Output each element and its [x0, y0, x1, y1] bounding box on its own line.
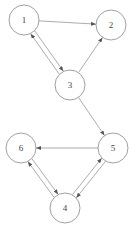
edge-3-to-1	[31, 34, 60, 75]
node-2: 2	[96, 10, 126, 40]
edge-1-to-2	[39, 21, 96, 24]
node-label: 6	[19, 143, 24, 153]
node-label: 1	[22, 15, 27, 25]
node-label: 3	[68, 80, 73, 90]
node-label: 5	[111, 143, 116, 153]
edge-3-to-5	[78, 97, 104, 135]
node-5: 5	[98, 133, 128, 163]
edge-5-to-4	[76, 161, 105, 198]
node-label: 2	[109, 20, 114, 30]
directed-graph: 123564	[0, 0, 139, 236]
node-label: 4	[63, 203, 68, 213]
node-6: 6	[6, 133, 36, 163]
edge-6-to-4	[32, 159, 58, 195]
edge-1-to-3	[35, 31, 64, 72]
node-1: 1	[9, 5, 39, 35]
node-4: 4	[50, 193, 80, 223]
edge-4-to-6	[28, 162, 54, 198]
edges-group	[28, 21, 106, 198]
node-3: 3	[55, 70, 85, 100]
nodes-group: 123564	[6, 5, 128, 223]
edge-3-to-2	[78, 37, 102, 72]
edge-4-to-5	[72, 158, 101, 195]
